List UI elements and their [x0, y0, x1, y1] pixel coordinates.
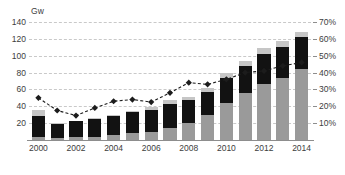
table-row — [257, 48, 270, 140]
bar-segment-lower-2003 — [88, 137, 101, 140]
table-row — [88, 118, 101, 140]
x-axis-labels: 20002002200420062008201020122014 — [0, 143, 345, 163]
table-row — [276, 41, 289, 140]
y-axis-right-tickmark-60 — [313, 39, 317, 40]
bar-segment-middle-2000 — [32, 116, 45, 137]
table-row — [107, 115, 120, 140]
bar-segment-lower-2002 — [69, 137, 82, 140]
bar-segment-lower-2008 — [182, 123, 195, 140]
y-axis-right-tick-10: 10% — [319, 118, 336, 128]
y-axis-left-tick-60: 60 — [17, 84, 26, 94]
bar-segment-middle-2004 — [107, 116, 120, 135]
y-axis-right-tick-40: 40% — [319, 68, 336, 78]
bar-segment-middle-2006 — [145, 110, 158, 132]
bar-segment-middle-2002 — [69, 121, 82, 137]
y-axis-unit-label: Gw — [31, 6, 44, 16]
bar-segment-lower-2013 — [276, 78, 289, 140]
bar-segment-middle-2010 — [220, 78, 233, 103]
bar-segment-middle-2005 — [126, 112, 139, 133]
bar-segment-lower-2009 — [201, 115, 214, 140]
bar-segment-lower-2000 — [32, 137, 45, 140]
y-axis-right-tickmark-70 — [313, 22, 317, 23]
bar-segment-middle-2014 — [295, 37, 308, 69]
bar-segment-middle-2012 — [257, 54, 270, 84]
bar-segment-lower-2004 — [107, 135, 120, 140]
bar-segment-lower-2005 — [126, 133, 139, 140]
bar-segment-middle-2003 — [88, 119, 101, 137]
y-axis-right-tick-20: 20% — [319, 101, 336, 111]
y-axis-right-tick-60: 60% — [319, 34, 336, 44]
y-axis-right-tickmark-10 — [313, 123, 317, 124]
bar-segment-middle-2009 — [201, 92, 214, 115]
y-axis-left-tick-40: 40 — [17, 101, 26, 111]
x-axis-tick-2002: 2002 — [67, 143, 86, 153]
bar-segment-lower-2012 — [257, 84, 270, 140]
y-axis-right-tick-70: 70% — [319, 17, 336, 27]
x-axis-tick-2012: 2012 — [255, 143, 274, 153]
y-axis-right-tickmark-30 — [313, 89, 317, 90]
x-axis-tick-2000: 2000 — [29, 143, 48, 153]
y-axis-right-tickmark-50 — [313, 56, 317, 57]
y-axis-left-tick-100: 100 — [12, 51, 26, 61]
bar-segment-middle-2001 — [51, 124, 64, 138]
table-row — [126, 111, 139, 140]
y-axis-right-tickmark-40 — [313, 73, 317, 74]
y-axis-right-tick-50: 50% — [319, 51, 336, 61]
table-row — [163, 100, 176, 140]
chart-container: Gw 14012010080604020 70%60%50%40%30%20%1… — [0, 0, 345, 175]
table-row — [145, 107, 158, 140]
x-axis-tick-2008: 2008 — [179, 143, 198, 153]
bar-series-group — [29, 22, 311, 140]
x-axis-tick-2010: 2010 — [217, 143, 236, 153]
table-row — [69, 121, 82, 140]
table-row — [32, 110, 45, 140]
y-axis-left-tick-80: 80 — [17, 68, 26, 78]
bar-segment-lower-2010 — [220, 103, 233, 140]
bar-segment-middle-2011 — [239, 66, 252, 93]
bar-segment-middle-2007 — [163, 104, 176, 128]
y-axis-right-tickmark-20 — [313, 106, 317, 107]
bar-segment-lower-2001 — [51, 138, 64, 140]
bar-segment-middle-2008 — [182, 100, 195, 123]
table-row — [51, 123, 64, 140]
table-row — [182, 97, 195, 140]
bar-segment-lower-2011 — [239, 93, 252, 140]
bar-segment-lower-2007 — [163, 128, 176, 140]
y-axis-left-tick-120: 120 — [12, 34, 26, 44]
x-axis-tick-2006: 2006 — [142, 143, 161, 153]
y-axis-right-tick-30: 30% — [319, 84, 336, 94]
x-axis-tick-2004: 2004 — [104, 143, 123, 153]
x-axis-line — [27, 140, 314, 141]
y-axis-left-tick-140: 140 — [12, 17, 26, 27]
table-row — [220, 73, 233, 140]
table-row — [239, 61, 252, 140]
table-row — [295, 32, 308, 140]
bar-segment-lower-2006 — [145, 132, 158, 140]
table-row — [201, 88, 214, 140]
y-axis-left-tick-20: 20 — [17, 118, 26, 128]
bar-segment-middle-2013 — [276, 47, 289, 77]
bar-segment-lower-2014 — [295, 69, 308, 140]
x-axis-tick-2014: 2014 — [292, 143, 311, 153]
